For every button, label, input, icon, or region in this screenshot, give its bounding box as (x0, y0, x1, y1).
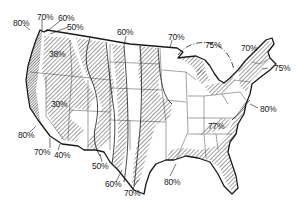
label-idaho-38: 38% (49, 50, 65, 59)
label-gulf-80: 80% (164, 178, 180, 187)
label-nevada-30: 30% (51, 100, 67, 109)
label-lakes-75: 75% (205, 41, 221, 50)
label-nw-80: 80% (13, 19, 29, 28)
label-az-40: 40% (54, 151, 70, 160)
label-nw-70: 70% (37, 13, 53, 22)
zone-plains-70 (132, 46, 172, 186)
label-tx-70: 70% (124, 189, 140, 198)
label-nw-50: 50% (67, 23, 83, 32)
us-isoline-map (0, 0, 302, 208)
label-montana-60: 60% (117, 28, 133, 37)
label-socal-70: 70% (34, 148, 50, 157)
label-nm-50: 50% (92, 162, 108, 171)
label-tx-60: 60% (105, 180, 121, 189)
label-ne-75: 75% (274, 64, 290, 73)
label-atl-80: 80% (260, 105, 276, 114)
label-ca-80: 80% (18, 131, 34, 140)
label-app-77: 77% (208, 122, 224, 131)
label-dakota-70: 70% (168, 33, 184, 42)
label-ne-70: 70% (241, 44, 257, 53)
